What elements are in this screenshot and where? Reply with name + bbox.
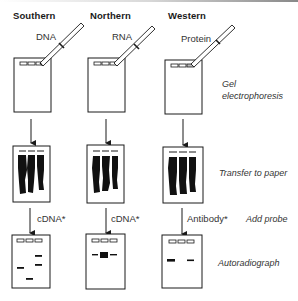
northern-pipette-icon xyxy=(114,26,155,66)
band-strong xyxy=(100,252,108,258)
southern-pipette-icon xyxy=(40,23,84,66)
band xyxy=(110,254,117,255)
northern-autoradiograph xyxy=(86,234,125,289)
band xyxy=(26,278,33,280)
band xyxy=(187,260,194,262)
band xyxy=(17,267,24,269)
band xyxy=(35,264,42,266)
southern-autoradiograph xyxy=(12,235,50,288)
northern-gel xyxy=(88,58,125,112)
northern-blot xyxy=(87,145,124,203)
blotting-diagram xyxy=(0,0,298,301)
southern-blot xyxy=(13,146,50,202)
band xyxy=(35,255,42,257)
band xyxy=(92,254,98,255)
band xyxy=(167,259,175,262)
western-pipette-icon xyxy=(191,25,235,67)
western-gel xyxy=(165,60,202,114)
western-autoradiograph xyxy=(162,235,202,288)
western-blot xyxy=(163,147,203,203)
southern-gel xyxy=(14,58,51,112)
